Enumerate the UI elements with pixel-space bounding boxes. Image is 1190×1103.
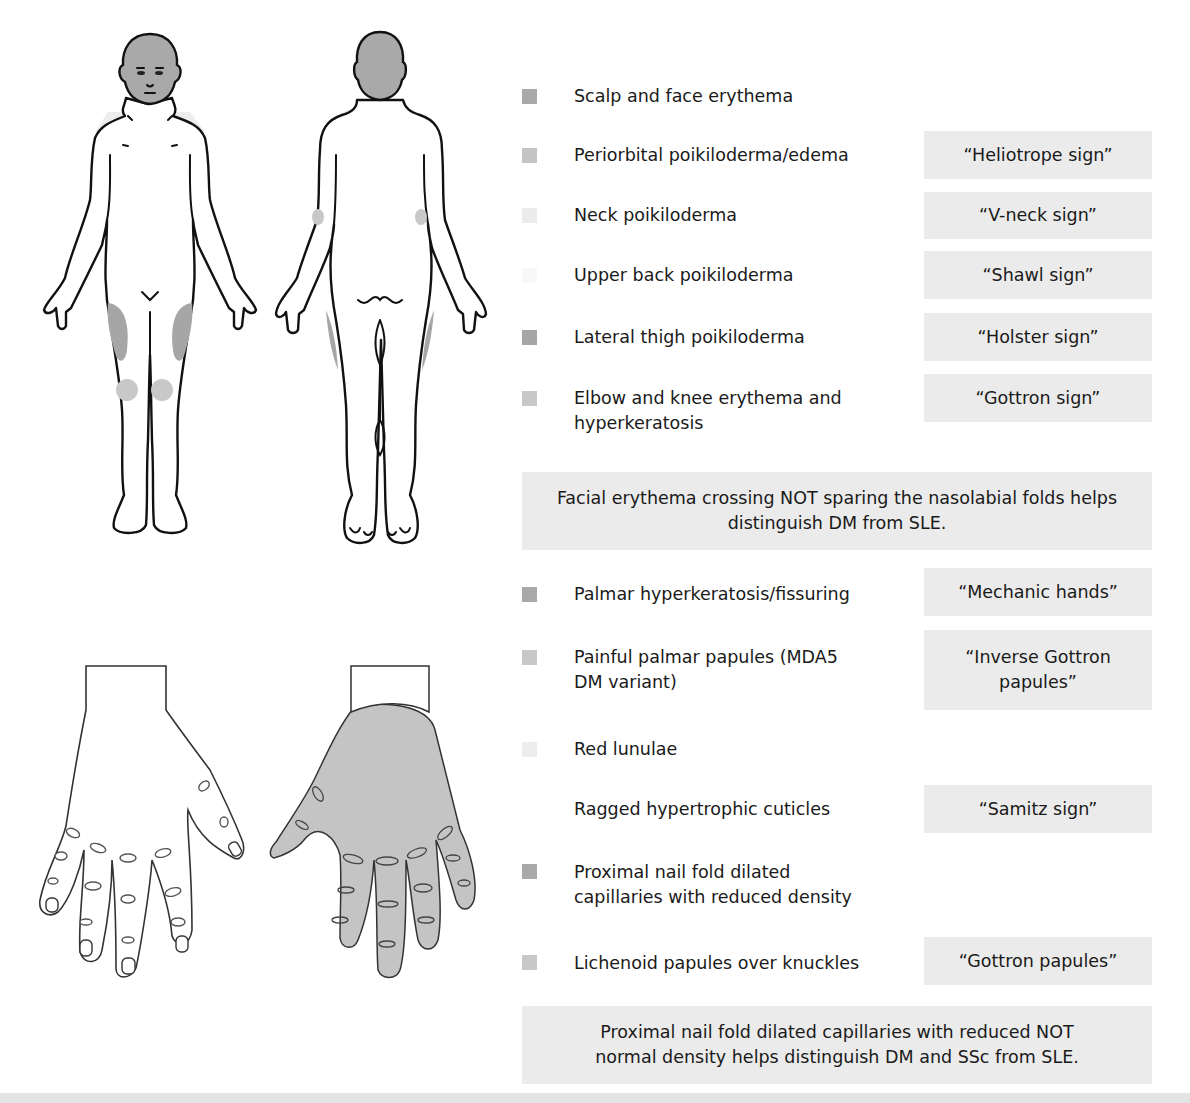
swatch-mechanic-hands — [522, 587, 537, 602]
note-nail-fold-capillaries: Proximal nail fold dilated capillaries w… — [522, 1006, 1152, 1084]
legend-item: Painful palmar papules (MDA5 DM variant)… — [522, 630, 1154, 710]
finding-label: Proximal nail fold dilated capillaries w… — [574, 860, 874, 910]
gottron-papule — [85, 882, 101, 890]
gottron-papule — [197, 779, 211, 793]
swatch-neck — [522, 208, 537, 223]
legend-item: Lichenoid papules over knuckles “Gottron… — [522, 937, 1154, 985]
bottom-divider — [0, 1093, 1190, 1103]
sign-label-mechanic-hands: “Mechanic hands” — [924, 568, 1152, 616]
finding-label: Painful palmar papules (MDA5 DM variant) — [574, 645, 864, 695]
fingernail — [46, 898, 58, 912]
elbow-shading-left — [312, 209, 324, 225]
swatch-palmar-papules — [522, 650, 537, 665]
elbow-shading-right — [415, 209, 427, 225]
legend-item: Neck poikiloderma “V-neck sign” — [522, 192, 1154, 239]
finding-label: Red lunulae — [574, 737, 894, 762]
gottron-papule — [80, 919, 92, 925]
right-eye — [155, 71, 163, 75]
dorsal-hand-figure — [20, 650, 260, 990]
gottron-papules — [48, 779, 228, 943]
fingernail — [176, 936, 188, 952]
gottron-papule — [154, 847, 172, 859]
palm-shading — [270, 704, 475, 977]
swatch-elbow-knee — [522, 391, 537, 406]
finding-label: Elbow and knee erythema and hyperkeratos… — [574, 386, 874, 436]
legend-item: Periorbital poikiloderma/edema “Heliotro… — [522, 131, 1154, 179]
gottron-papule — [89, 842, 107, 855]
fingernail — [122, 958, 135, 974]
fingernails — [46, 840, 243, 974]
gottron-papule — [48, 878, 58, 884]
knee-shading-right — [151, 379, 173, 401]
legend-item: Scalp and face erythema — [522, 84, 1154, 109]
fingernail — [80, 940, 92, 956]
finding-label: Lateral thigh poikiloderma — [574, 325, 894, 350]
legend-item: Proximal nail fold dilated capillaries w… — [522, 860, 1154, 910]
sign-label-holster: “Holster sign” — [924, 313, 1152, 361]
sign-label-v-neck: “V-neck sign” — [924, 192, 1152, 239]
legend-item: Elbow and knee erythema and hyperkeratos… — [522, 374, 1154, 438]
sign-label-samitz: “Samitz sign” — [924, 785, 1152, 833]
gottron-papule — [55, 852, 67, 860]
legend-item: Lateral thigh poikiloderma “Holster sign… — [522, 313, 1154, 361]
gottron-papule — [164, 886, 182, 898]
legend-item: Ragged hypertrophic cuticles “Samitz sig… — [522, 785, 1154, 833]
palmar-hand-figure — [260, 650, 490, 990]
front-body-figure — [30, 20, 270, 560]
swatch-nail-fold-capillaries — [522, 864, 537, 879]
finding-label: Periorbital poikiloderma/edema — [574, 143, 894, 168]
sign-label-inverse-gottron: “Inverse Gottron papules” — [924, 630, 1152, 710]
swatch-periorbital — [522, 148, 537, 163]
finding-label: Neck poikiloderma — [574, 203, 894, 228]
swatch-lateral-thigh — [522, 330, 537, 345]
finding-label: Palmar hyperkeratosis/fissuring — [574, 582, 894, 607]
legend-item: Palmar hyperkeratosis/fissuring “Mechani… — [522, 568, 1154, 616]
back-body-figure — [260, 20, 500, 570]
sign-label-gottron: “Gottron sign” — [924, 374, 1152, 422]
finding-label: Upper back poikiloderma — [574, 263, 894, 288]
finding-label: Scalp and face erythema — [574, 84, 894, 109]
swatch-upper-back — [522, 268, 537, 283]
gottron-papule — [120, 854, 136, 862]
swatch-scalp-face — [522, 89, 537, 104]
swatch-red-lunulae — [522, 742, 537, 757]
knee-shading-left — [116, 379, 138, 401]
left-eye — [137, 71, 145, 75]
sign-label-gottron-papules: “Gottron papules” — [924, 937, 1152, 985]
legend-item: Upper back poikiloderma “Shawl sign” — [522, 251, 1154, 299]
swatch-gottron-papules — [522, 955, 537, 970]
finding-label: Ragged hypertrophic cuticles — [574, 797, 894, 822]
legend-item: Red lunulae — [522, 737, 1154, 762]
gottron-papule — [220, 817, 228, 827]
dorsal-hand-outline — [40, 666, 244, 977]
sign-label-heliotrope: “Heliotrope sign” — [924, 131, 1152, 179]
note-facial-erythema: Facial erythema crossing NOT sparing the… — [522, 472, 1152, 550]
gottron-papule — [171, 918, 185, 926]
back-head-shaded — [354, 32, 406, 100]
gottron-papule — [65, 826, 81, 839]
gottron-papule — [122, 937, 134, 943]
finding-label: Lichenoid papules over knuckles — [574, 951, 894, 976]
sign-label-shawl: “Shawl sign” — [924, 251, 1152, 299]
gottron-papule — [121, 895, 135, 903]
